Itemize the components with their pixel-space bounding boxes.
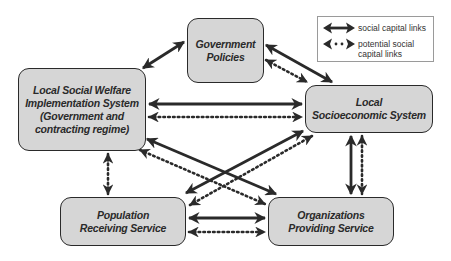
social-capital-diagram: Government Policies Local Social Welfare…	[0, 0, 451, 261]
node-label: Providing Service	[288, 222, 373, 235]
double-arrow-solid-icon	[323, 22, 355, 34]
legend-label-dotted: potential social capital links	[358, 39, 414, 59]
node-population-receiving-service: Population Receiving Service	[60, 197, 186, 246]
legend-label-solid: social capital links	[358, 23, 426, 33]
legend-label-dotted-line2: capital links	[358, 49, 414, 59]
node-label: Implementation System	[25, 97, 139, 110]
node-label: (Government and	[25, 110, 139, 123]
legend-label-dotted-line1: potential social	[358, 39, 414, 49]
node-label: Policies	[196, 51, 256, 64]
edge-lsw-gov-solid	[143, 42, 184, 68]
node-label: Local	[312, 96, 426, 109]
edge-lsw-org-dotted	[140, 150, 265, 204]
node-government-policies: Government Policies	[187, 18, 264, 83]
node-label: Socioeconomic System	[312, 109, 426, 122]
legend-item-dotted: potential social capital links	[323, 38, 414, 59]
node-local-socioeconomic-system: Local Socioeconomic System	[305, 85, 433, 133]
node-local-social-welfare-system: Local Social Welfare Implementation Syst…	[18, 68, 146, 151]
node-organizations-providing-service: Organizations Providing Service	[268, 197, 394, 246]
node-label: Government	[196, 38, 256, 51]
node-label: Local Social Welfare	[25, 84, 139, 97]
legend-item-solid: social capital links	[323, 22, 426, 34]
node-label: Population	[80, 209, 167, 222]
legend: social capital links potential social ca…	[317, 16, 434, 62]
node-label: Organizations	[288, 209, 373, 222]
edge-lse-pop-dotted	[190, 136, 312, 205]
double-arrow-dotted-icon	[323, 38, 355, 50]
node-label: contracting regime)	[25, 123, 139, 136]
node-label: Receiving Service	[80, 222, 167, 235]
